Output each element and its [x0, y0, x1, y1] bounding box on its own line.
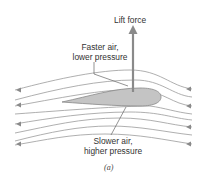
figure-caption: (a)	[104, 163, 113, 172]
streamline-5	[15, 112, 192, 124]
leader-line-bottom	[111, 107, 126, 135]
streamline-1	[15, 70, 192, 90]
lift-arrowhead	[129, 25, 138, 34]
lower-label-line1: Slower air,	[78, 136, 148, 146]
streamlines	[15, 70, 192, 145]
lower-label-line2: higher pressure	[78, 146, 148, 156]
upper-label-line2: lower pressure	[66, 52, 134, 62]
upper-surface-label: Faster air, lower pressure	[66, 42, 134, 62]
lower-surface-label: Slower air, higher pressure	[78, 136, 148, 156]
streamline-6	[15, 118, 192, 133]
airfoil	[62, 88, 161, 106]
lift-force-label: Lift force	[114, 15, 146, 25]
airfoil-diagram: Lift force Faster air, lower pressure Sl…	[0, 0, 207, 178]
upper-label-line1: Faster air,	[66, 42, 134, 52]
